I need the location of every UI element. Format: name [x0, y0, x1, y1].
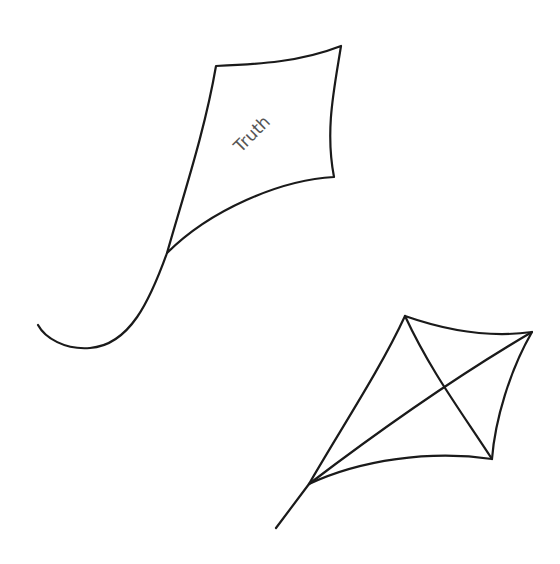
kite-outline: [167, 46, 341, 253]
kites-drawing: Truth: [0, 0, 560, 564]
plain-kite: [276, 316, 532, 528]
kite-string: [38, 253, 167, 348]
kite-label: Truth: [229, 111, 274, 156]
kite-string: [276, 484, 309, 528]
kite-spar-horizontal: [309, 332, 532, 484]
labeled-kite: Truth: [38, 46, 341, 348]
kite-spar-vertical: [405, 316, 492, 459]
